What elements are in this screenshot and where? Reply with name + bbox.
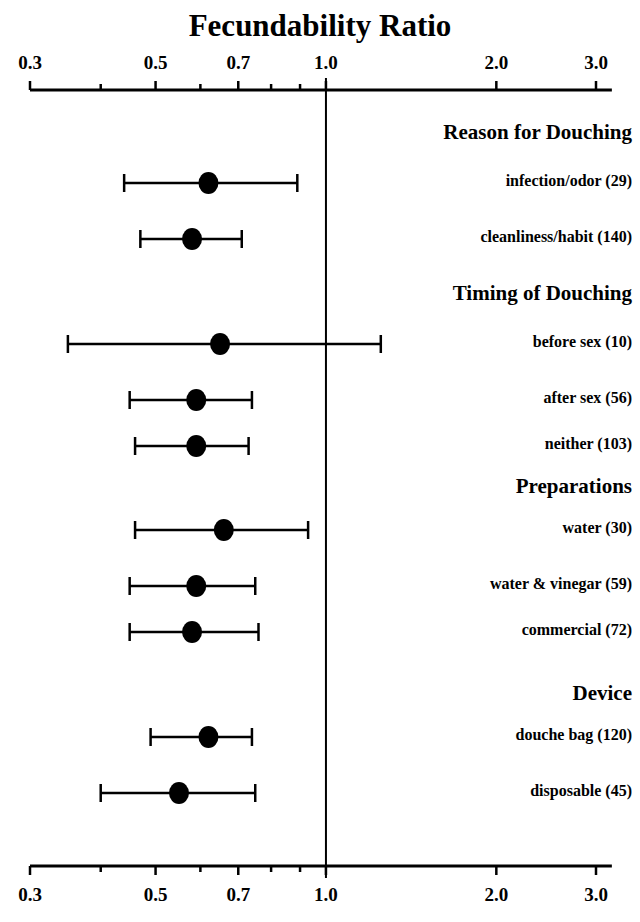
point-estimate-marker bbox=[214, 519, 234, 541]
point-estimate-marker bbox=[182, 621, 202, 643]
row-label: before sex (10) bbox=[533, 333, 632, 351]
axis-tick-label: 0.3 bbox=[18, 52, 42, 74]
group-heading: Timing of Douching bbox=[453, 281, 632, 306]
point-estimate-marker bbox=[198, 172, 218, 194]
axis-tick-label: 2.0 bbox=[484, 884, 508, 906]
point-estimate-marker bbox=[186, 435, 206, 457]
row-label: water (30) bbox=[563, 519, 632, 537]
axis-tick-label: 3.0 bbox=[584, 884, 608, 906]
row-label: neither (103) bbox=[545, 435, 632, 453]
group-heading: Preparations bbox=[516, 474, 632, 499]
axis-tick-label: 1.0 bbox=[314, 884, 338, 906]
row-label: after sex (56) bbox=[543, 389, 632, 407]
row-label: infection/odor (29) bbox=[506, 172, 632, 190]
point-estimate-marker bbox=[169, 782, 189, 804]
point-estimate-marker bbox=[186, 389, 206, 411]
forest-plot: Fecundability Ratio 0.30.50.71.02.03.0 0… bbox=[0, 0, 640, 922]
axis-tick-label: 0.3 bbox=[18, 884, 42, 906]
axis-tick-label: 0.5 bbox=[144, 52, 168, 74]
group-heading: Device bbox=[573, 681, 632, 706]
row-label: cleanliness/habit (140) bbox=[480, 228, 632, 246]
row-label: commercial (72) bbox=[522, 621, 632, 639]
axis-tick-label: 0.7 bbox=[226, 884, 250, 906]
point-estimate-marker bbox=[198, 726, 218, 748]
point-estimate-marker bbox=[210, 333, 230, 355]
row-label: water & vinegar (59) bbox=[490, 575, 632, 593]
axis-tick-label: 0.7 bbox=[226, 52, 250, 74]
row-label: disposable (45) bbox=[530, 782, 632, 800]
axis-tick-label: 2.0 bbox=[484, 52, 508, 74]
axis-tick-label: 1.0 bbox=[314, 52, 338, 74]
row-label: douche bag (120) bbox=[516, 726, 632, 744]
axis-tick-label: 3.0 bbox=[584, 52, 608, 74]
point-estimate-marker bbox=[182, 228, 202, 250]
point-estimate-marker bbox=[186, 575, 206, 597]
axis-tick-label: 0.5 bbox=[144, 884, 168, 906]
group-heading: Reason for Douching bbox=[443, 120, 632, 145]
